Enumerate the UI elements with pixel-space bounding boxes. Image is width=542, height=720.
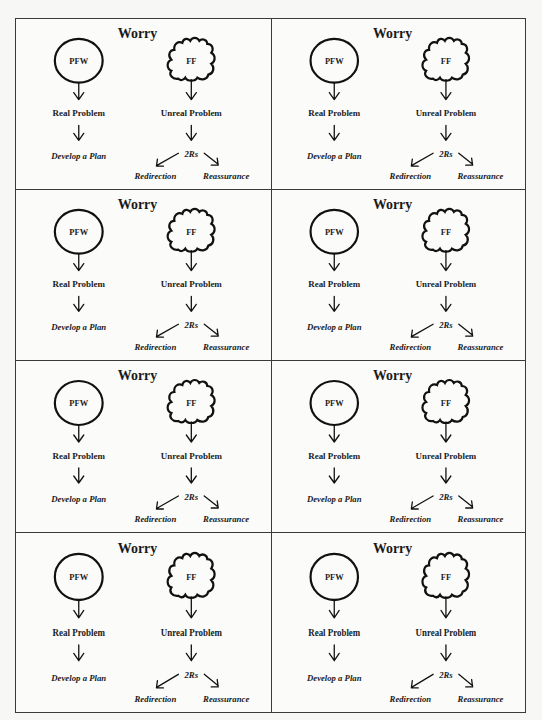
arrow-down-icon xyxy=(74,425,84,442)
pfw-label: PFW xyxy=(325,56,344,66)
card-title: Worry xyxy=(118,368,158,383)
arrow-down-left-icon xyxy=(156,496,178,509)
arrow-down-icon xyxy=(329,468,339,483)
develop-plan-label: Develop a Plan xyxy=(306,151,362,161)
worry-card-r3-c1: Worry PFW FF Real Problem Unreal Problem… xyxy=(16,361,272,533)
arrow-down-icon xyxy=(186,125,196,140)
worry-card-r1-c2: Worry PFW FF Real Problem Unreal Problem… xyxy=(272,19,525,190)
worry-card-r4-c2: Worry PFW FF Real Problem Unreal Problem… xyxy=(272,533,525,712)
reassurance-label: Reassurance xyxy=(457,514,504,524)
pfw-label: PFW xyxy=(325,398,344,408)
real-problem-label: Real Problem xyxy=(53,108,106,118)
unreal-problem-label: Unreal Problem xyxy=(161,108,223,118)
arrow-down-icon xyxy=(74,468,84,483)
arrow-down-icon xyxy=(186,251,196,271)
ff-label: FF xyxy=(441,227,451,237)
two-rs-label: 2Rs xyxy=(438,149,453,159)
two-rs-label: 2Rs xyxy=(183,492,198,502)
worry-card-r3-c2: Worry PFW FF Real Problem Unreal Problem… xyxy=(272,361,525,533)
worry-card-r2-c2: Worry PFW FF Real Problem Unreal Problem… xyxy=(272,190,525,361)
two-rs-label: 2Rs xyxy=(438,320,453,330)
worry-diagram: Worry PFW FF Real Problem Unreal Problem… xyxy=(16,190,271,360)
worry-diagram: Worry PFW FF Real Problem Unreal Problem… xyxy=(272,19,525,189)
arrow-down-icon xyxy=(441,422,451,442)
arrow-down-icon xyxy=(74,600,84,618)
develop-plan-label: Develop a Plan xyxy=(306,672,361,682)
develop-plan-label: Develop a Plan xyxy=(50,672,106,682)
arrow-down-icon xyxy=(74,254,84,271)
arrow-down-right-icon xyxy=(204,674,218,687)
arrow-down-left-icon xyxy=(156,324,178,337)
pfw-label: PFW xyxy=(69,227,88,237)
arrow-down-icon xyxy=(329,296,339,311)
pfw-label: PFW xyxy=(325,572,344,582)
ff-label: FF xyxy=(186,572,196,582)
arrow-down-icon xyxy=(74,296,84,311)
arrow-down-icon xyxy=(186,296,196,311)
arrow-down-right-icon xyxy=(204,496,218,508)
ff-label: FF xyxy=(441,398,451,408)
reassurance-label: Reassurance xyxy=(457,171,504,181)
reassurance-label: Reassurance xyxy=(202,693,249,703)
redirection-label: Redirection xyxy=(134,693,177,703)
arrow-down-icon xyxy=(74,125,84,140)
unreal-problem-label: Unreal Problem xyxy=(416,627,477,637)
arrow-down-left-icon xyxy=(156,153,178,166)
real-problem-label: Real Problem xyxy=(308,108,360,118)
real-problem-label: Real Problem xyxy=(53,627,106,637)
worry-card-r2-c1: Worry PFW FF Real Problem Unreal Problem… xyxy=(16,190,272,361)
reassurance-label: Reassurance xyxy=(202,514,249,524)
redirection-label: Redirection xyxy=(134,171,177,181)
develop-plan-label: Develop a Plan xyxy=(306,322,362,332)
reassurance-label: Reassurance xyxy=(457,342,504,352)
real-problem-label: Real Problem xyxy=(308,451,360,461)
arrow-down-icon xyxy=(329,83,339,100)
real-problem-label: Real Problem xyxy=(53,451,106,461)
arrow-down-icon xyxy=(329,125,339,140)
arrow-down-icon xyxy=(441,645,451,661)
worksheet-grid: Worry PFW FF Real Problem Unreal Problem… xyxy=(15,18,526,713)
ff-label: FF xyxy=(186,227,196,237)
arrow-down-right-icon xyxy=(459,674,473,687)
arrow-down-icon xyxy=(441,80,451,100)
worry-diagram: Worry PFW FF Real Problem Unreal Problem… xyxy=(272,361,525,532)
arrow-down-right-icon xyxy=(459,496,473,508)
ff-label: FF xyxy=(186,56,196,66)
real-problem-label: Real Problem xyxy=(308,627,360,637)
card-title: Worry xyxy=(118,197,158,212)
ff-label: FF xyxy=(186,398,196,408)
arrow-down-left-icon xyxy=(411,496,433,509)
worry-card-r4-c1: Worry PFW FF Real Problem Unreal Problem… xyxy=(16,533,272,712)
card-title: Worry xyxy=(373,368,412,383)
two-rs-label: 2Rs xyxy=(438,492,453,502)
card-title: Worry xyxy=(373,197,412,212)
card-title: Worry xyxy=(373,26,412,41)
arrow-down-right-icon xyxy=(204,153,218,165)
worry-diagram: Worry PFW FF Real Problem Unreal Problem… xyxy=(16,533,271,712)
worry-diagram: Worry PFW FF Real Problem Unreal Problem… xyxy=(16,19,271,189)
unreal-problem-label: Unreal Problem xyxy=(161,279,223,289)
arrow-down-icon xyxy=(329,425,339,442)
unreal-problem-label: Unreal Problem xyxy=(416,108,477,118)
unreal-problem-label: Unreal Problem xyxy=(161,627,222,637)
redirection-label: Redirection xyxy=(134,514,177,524)
real-problem-label: Real Problem xyxy=(308,279,360,289)
two-rs-label: 2Rs xyxy=(438,670,453,680)
two-rs-label: 2Rs xyxy=(183,149,198,159)
unreal-problem-label: Unreal Problem xyxy=(161,451,223,461)
develop-plan-label: Develop a Plan xyxy=(50,494,106,504)
arrow-down-left-icon xyxy=(156,674,178,688)
unreal-problem-label: Unreal Problem xyxy=(416,279,477,289)
arrow-down-icon xyxy=(186,597,196,618)
develop-plan-label: Develop a Plan xyxy=(306,494,362,504)
arrow-down-icon xyxy=(329,600,339,618)
pfw-label: PFW xyxy=(325,227,344,237)
arrow-down-left-icon xyxy=(411,324,433,337)
two-rs-label: 2Rs xyxy=(183,320,198,330)
ff-label: FF xyxy=(441,572,451,582)
reassurance-label: Reassurance xyxy=(202,342,249,352)
real-problem-label: Real Problem xyxy=(53,279,106,289)
worry-diagram: Worry PFW FF Real Problem Unreal Problem… xyxy=(272,533,525,712)
redirection-label: Redirection xyxy=(134,342,177,352)
arrow-down-icon xyxy=(186,80,196,100)
